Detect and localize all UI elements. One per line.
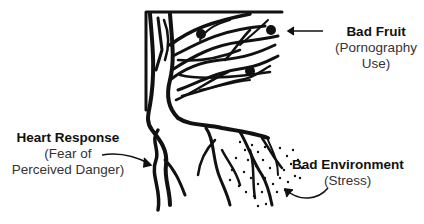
fruit [266, 25, 276, 35]
label-bad-environment: Bad Environment (Stress) [292, 157, 416, 189]
bad-fruit-title: Bad Fruit [332, 24, 420, 40]
bad-fruit-line2: Use) [332, 56, 420, 72]
heart-response-line2: Perceived Danger) [4, 162, 132, 178]
label-bad-fruit: Bad Fruit (Pornography Use) [332, 24, 420, 72]
root [154, 130, 159, 210]
bad-environment-line1: (Stress) [292, 173, 416, 189]
bad-environment-title: Bad Environment [292, 157, 416, 173]
heart-response-line1: (Fear of [4, 146, 132, 162]
fruit [245, 66, 255, 76]
trunk [148, 14, 170, 205]
fruit [196, 29, 206, 39]
heart-response-title: Heart Response [4, 130, 132, 146]
bad-fruit-line1: (Pornography [332, 40, 420, 56]
label-heart-response: Heart Response (Fear of Perceived Danger… [4, 130, 132, 178]
